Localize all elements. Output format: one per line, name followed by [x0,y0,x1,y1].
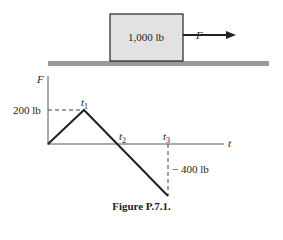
x-axis-label: t [228,137,231,149]
block-weight-label: F [196,28,203,43]
y-tick-200: 200 lb [13,104,41,116]
t1-label: t1 [81,96,88,111]
ground [48,61,269,66]
force-label: F [196,29,203,41]
figure-caption: Figure P.7.1. [0,200,283,212]
block-label: 1,000 lb [128,31,164,43]
force-curve [48,110,168,196]
y-axis-label: F [37,73,44,85]
t3-label: t3 [163,130,170,145]
t2-label: t2 [119,130,126,145]
arrowhead-icon [226,31,236,39]
y-tick-neg400: − 400 lb [172,163,209,175]
